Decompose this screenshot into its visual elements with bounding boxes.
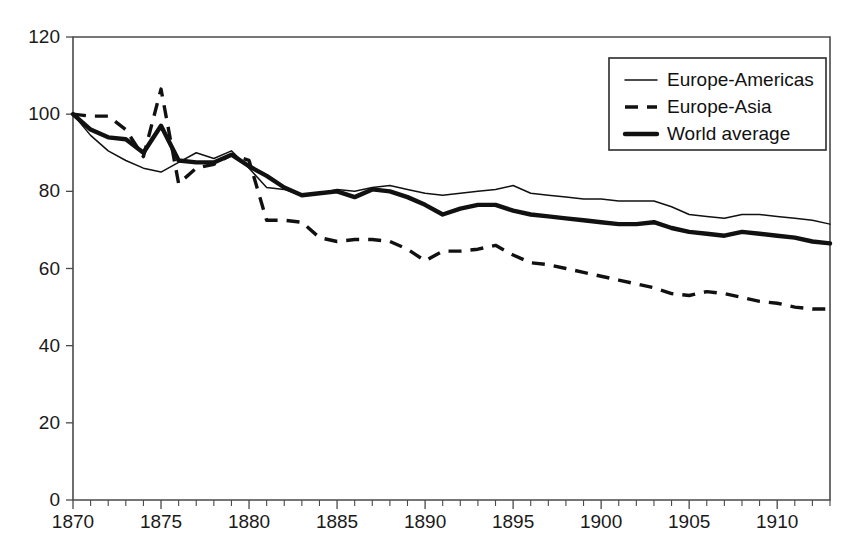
y-tick-label: 100 (28, 103, 60, 124)
legend-label: World average (667, 123, 790, 144)
legend-label: Europe-Asia (667, 96, 772, 117)
y-tick-label: 80 (39, 180, 60, 201)
x-tick-label: 1890 (404, 511, 446, 532)
y-tick-label: 60 (39, 258, 60, 279)
y-tick-label: 20 (39, 412, 60, 433)
x-tick-label: 1880 (228, 511, 270, 532)
x-tick-label: 1895 (492, 511, 534, 532)
x-tick-label: 1910 (756, 511, 798, 532)
x-tick-label: 1870 (52, 511, 94, 532)
caption-ghost (8, 534, 248, 550)
y-tick-label: 40 (39, 335, 60, 356)
x-tick-label: 1885 (316, 511, 358, 532)
chart-legend: Europe-AmericasEurope-AsiaWorld average (609, 58, 826, 150)
legend-label: Europe-Americas (667, 69, 814, 90)
x-tick-label: 1875 (140, 511, 182, 532)
x-tick-label: 1900 (580, 511, 622, 532)
figure-container: 020406080100120 187018751880188518901895… (0, 0, 861, 556)
y-tick-label: 120 (28, 26, 60, 47)
y-tick-label: 0 (49, 489, 60, 510)
x-axis-tick-labels: 187018751880188518901895190019051910 (52, 511, 798, 532)
x-tick-label: 1905 (668, 511, 710, 532)
y-axis-tick-labels: 020406080100120 (28, 26, 60, 510)
line-chart: 020406080100120 187018751880188518901895… (0, 0, 861, 556)
